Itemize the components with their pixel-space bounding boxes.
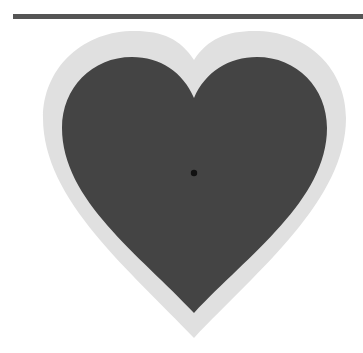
center-dot bbox=[191, 170, 197, 176]
heart-graphic bbox=[0, 0, 363, 353]
